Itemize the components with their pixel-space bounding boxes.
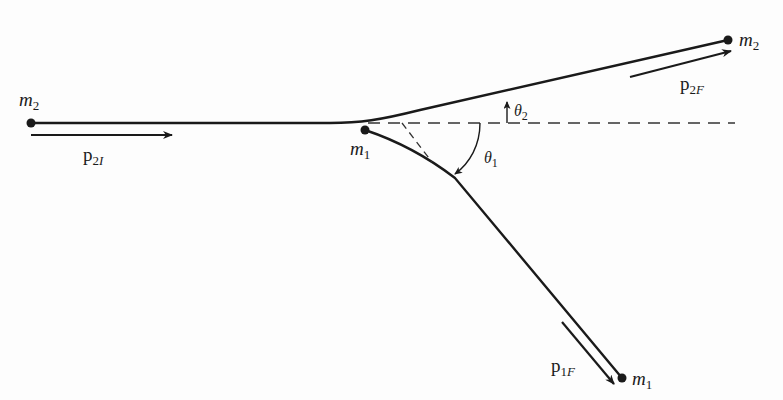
label-subscript: 2 [753, 38, 760, 53]
label-p2I: p2I [83, 145, 103, 167]
label-m2-final: m2 [739, 30, 759, 52]
label-symbol: p [83, 144, 93, 165]
label-m1-initial: m1 [350, 139, 370, 161]
collision-diagram: m2 m1 m2 m1 p2I p2F p1F θ2 θ1 [0, 0, 783, 400]
label-subscript-letter: F [696, 82, 704, 97]
label-subscript: 1 [364, 147, 371, 162]
m1-final-dot [618, 374, 627, 383]
label-m1-final: m1 [632, 369, 652, 391]
label-symbol: m [19, 89, 33, 110]
diagram-graphics [0, 0, 783, 400]
label-subscript: 2 [33, 98, 40, 113]
label-symbol: m [739, 29, 753, 50]
label-theta2: θ2 [514, 103, 528, 122]
theta1-arc [455, 123, 480, 174]
label-subscript-letter: F [567, 364, 575, 379]
m1-asymptote-dashed [402, 123, 432, 162]
label-symbol: m [350, 138, 364, 159]
label-symbol: θ [484, 149, 492, 166]
m2-final-dot [724, 36, 733, 45]
label-symbol: p [551, 355, 561, 376]
label-subscript: 1 [646, 377, 653, 392]
label-symbol: p [680, 73, 690, 94]
label-symbol: θ [514, 102, 522, 119]
label-subscript: 1 [492, 156, 498, 170]
label-symbol: m [632, 368, 646, 389]
m2-trajectory [31, 40, 728, 123]
label-subscript-letter: I [99, 153, 103, 168]
label-subscript: 2 [522, 109, 528, 123]
m1-initial-dot [361, 126, 370, 135]
label-p2F: p2F [680, 74, 704, 96]
m2-initial-dot [27, 119, 36, 128]
label-m2-initial: m2 [19, 90, 39, 112]
label-p1F: p1F [551, 356, 575, 378]
label-theta1: θ1 [484, 150, 498, 169]
